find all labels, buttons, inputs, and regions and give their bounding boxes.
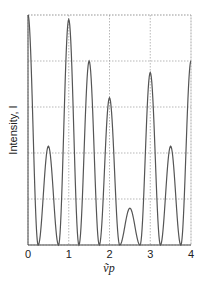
y-axis-label: Intensity, I (7, 105, 19, 154)
x-tick-label: 3 (147, 248, 153, 260)
grid-lines (28, 15, 191, 245)
x-tick-labels: 01234 (25, 248, 194, 260)
x-axis-label: ṽp (103, 261, 114, 275)
x-tick-label: 4 (188, 248, 194, 260)
x-tick-label: 1 (66, 248, 72, 260)
x-tick-label: 0 (25, 248, 31, 260)
intensity-chart: 01234 ṽp Intensity, I (0, 0, 204, 285)
x-tick-label: 2 (106, 248, 112, 260)
